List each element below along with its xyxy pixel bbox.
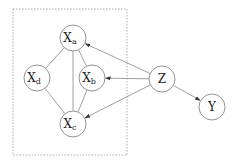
node-xa: Xa (60, 25, 86, 51)
node-xd: Xd (24, 65, 50, 91)
node-y: Y (199, 94, 225, 120)
edge-xd-xc (45, 88, 65, 113)
edge-z-xb (105, 78, 149, 79)
edge-xa-xb (79, 50, 87, 66)
diagram-canvas: XaXdXbXcZY (0, 0, 244, 164)
nodes-group: XaXdXbXcZY (24, 25, 225, 137)
node-xb: Xb (79, 65, 105, 91)
node-z: Z (149, 66, 175, 92)
edges-group (45, 44, 200, 118)
node-label: Y (207, 100, 217, 114)
edge-xa-xd (46, 48, 64, 68)
node-xc: Xc (60, 111, 86, 137)
node-label: Z (158, 72, 166, 86)
edge-xb-xc (78, 90, 87, 112)
edge-z-y (173, 85, 200, 100)
